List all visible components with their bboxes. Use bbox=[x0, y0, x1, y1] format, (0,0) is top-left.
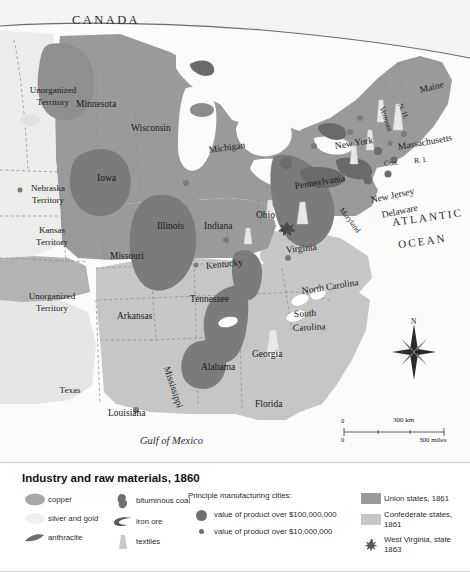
legend-label-anthracite: anthracite bbox=[48, 533, 82, 543]
historical-map[interactable]: C A N A D A ATLANTIC OCEAN Gulf of Mexic… bbox=[0, 0, 470, 462]
textiles-icon bbox=[110, 534, 136, 550]
silver-gold-icon bbox=[22, 512, 48, 525]
legend-label-silver-gold: silver and gold bbox=[48, 514, 98, 524]
legend-item-iron-ore: iron ore bbox=[110, 515, 200, 528]
anthracite-icon bbox=[22, 531, 48, 544]
legend-status-group: Union states, 1861 Confederate states, 1… bbox=[358, 493, 470, 561]
coal-region-iowa bbox=[70, 149, 131, 216]
copper-blob-icon bbox=[22, 493, 48, 506]
map-page: C A N A D A ATLANTIC OCEAN Gulf of Mexic… bbox=[0, 0, 470, 572]
legend-item-confederate: Confederate states, 1861 bbox=[358, 510, 470, 529]
legend-label-city-large: value of product over $100,000,000 bbox=[214, 510, 337, 520]
legend-item-west-virginia: West Virginia, state 1863 bbox=[358, 535, 470, 554]
legend-item-city-small: value of product over $10,000,000 bbox=[188, 527, 348, 537]
legend-cities-group: Principle manufacturing cities: value of… bbox=[188, 491, 348, 542]
legend-label-city-small: value of product over $10,000,000 bbox=[214, 527, 332, 537]
legend-label-west-virginia: West Virginia, state 1863 bbox=[384, 535, 470, 554]
bituminous-coal-icon bbox=[110, 493, 136, 509]
legend-label-iron-ore: iron ore bbox=[136, 517, 162, 527]
texas-region bbox=[0, 300, 96, 404]
copper-deposit-michigan bbox=[190, 103, 214, 117]
confederate-swatch-icon bbox=[358, 514, 384, 525]
map-graphics bbox=[0, 0, 470, 462]
city-dot-large-icon bbox=[188, 510, 214, 521]
legend-item-bituminous-coal: bituminous coal bbox=[110, 493, 200, 509]
map-legend: Industry and raw materials, 1860 copper … bbox=[0, 462, 470, 572]
legend-item-textiles: textiles bbox=[110, 534, 200, 550]
city-dot-small-icon bbox=[188, 529, 214, 534]
legend-label-confederate: Confederate states, 1861 bbox=[384, 510, 470, 529]
legend-item-city-large: value of product over $100,000,000 bbox=[188, 510, 348, 521]
legend-item-union: Union states, 1861 bbox=[358, 493, 470, 504]
legend-label-union: Union states, 1861 bbox=[384, 494, 449, 504]
legend-title: Industry and raw materials, 1860 bbox=[22, 472, 200, 484]
legend-resources-col2: bituminous coal iron ore textiles bbox=[110, 493, 200, 556]
legend-label-copper: copper bbox=[48, 495, 72, 505]
west-virginia-hatch-icon bbox=[358, 538, 384, 552]
unorganized-territory-mid bbox=[0, 256, 90, 302]
legend-cities-heading: Principle manufacturing cities: bbox=[188, 491, 348, 501]
legend-label-textiles: textiles bbox=[136, 537, 160, 547]
union-swatch-icon bbox=[358, 493, 384, 504]
iron-ore-icon bbox=[110, 515, 136, 528]
legend-label-bituminous-coal: bituminous coal bbox=[136, 496, 190, 506]
silver-gold-deposit bbox=[20, 114, 40, 126]
